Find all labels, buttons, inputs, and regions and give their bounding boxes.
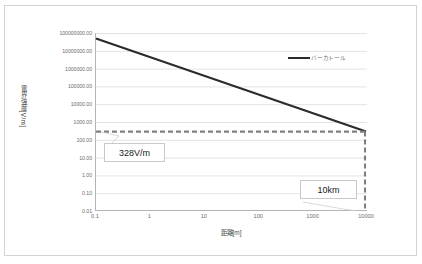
y-tick-label: 1.00: [82, 172, 92, 178]
y-tick-label: 10000000.00: [62, 48, 92, 54]
y-tick-label: 1000000.00: [65, 66, 92, 72]
y-tick-label: 0.10: [82, 190, 92, 196]
x-tick-label: 1: [148, 213, 151, 219]
y-tick-label: 100000000.00: [59, 30, 92, 36]
x-axis-tick-labels: 0.1 1 10 100 1000 10000: [95, 213, 367, 225]
x-tick-label: 100: [254, 213, 263, 219]
y-tick-label: 10.00: [79, 155, 92, 161]
field-strength-callout: 328V/m: [104, 143, 165, 162]
y-tick-label: 10000.00: [71, 101, 92, 107]
chart-container: 100000000.00 10000000.00 1000000.00 1000…: [0, 0, 422, 264]
y-tick-label: 100.00: [76, 137, 92, 143]
x-tick-label: 1000: [306, 213, 318, 219]
chart-legend: バーカトール: [288, 54, 346, 62]
x-tick-label: 10: [201, 213, 207, 219]
x-axis-title: 距離[m]: [95, 228, 367, 237]
x-tick-label: 10000: [358, 213, 374, 219]
x-tick-label: 0.1: [91, 213, 99, 219]
distance-callout: 10km: [300, 180, 357, 199]
y-axis-title: 電界強度[V/m]: [19, 85, 28, 128]
legend-entry-label: バーカトール: [311, 54, 346, 62]
series-line-solid: [96, 39, 366, 132]
y-tick-label: 100000.00: [68, 83, 92, 89]
y-tick-label: 1000.00: [74, 119, 92, 125]
legend-swatch-icon: [288, 57, 310, 59]
y-axis-tick-labels: 100000000.00 10000000.00 1000000.00 1000…: [0, 33, 92, 211]
